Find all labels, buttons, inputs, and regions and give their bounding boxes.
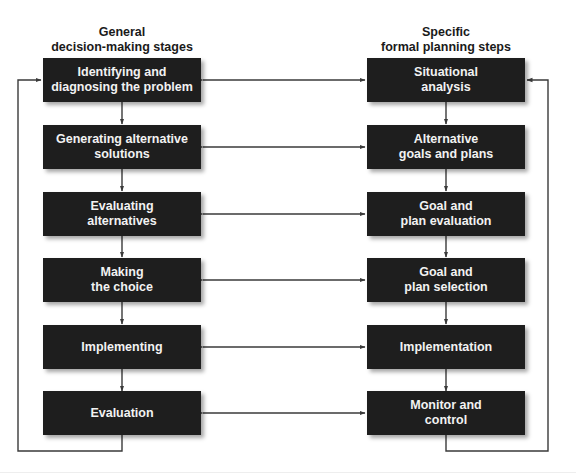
stage-label-line2: the choice	[91, 280, 153, 295]
stage-label-line1: Identifying and	[78, 65, 167, 80]
step-label-line1: Goal and	[419, 265, 472, 280]
stage-label-line1: Evaluating	[90, 199, 153, 214]
stage-label-line2: alternatives	[87, 214, 156, 229]
right-header-line2: formal planning steps	[336, 40, 556, 55]
right-header-line1: Specific	[336, 25, 556, 40]
step-alternative-goals-plans: Alternative goals and plans	[367, 125, 525, 169]
step-label-line2: goals and plans	[399, 147, 493, 162]
step-label-line1: Monitor and	[410, 398, 482, 413]
step-goal-plan-evaluation: Goal and plan evaluation	[367, 192, 525, 236]
left-column-header: General decision-making stages	[12, 25, 232, 55]
stage-label-line2: solutions	[94, 147, 150, 162]
step-label-line1: Situational	[414, 65, 478, 80]
stage-identifying-diagnosing: Identifying and diagnosing the problem	[43, 58, 201, 102]
stage-implementing: Implementing	[43, 325, 201, 369]
diagram-canvas: General decision-making stages Specific …	[0, 0, 576, 476]
stage-evaluating-alternatives: Evaluating alternatives	[43, 192, 201, 236]
stage-generating-alternatives: Generating alternative solutions	[43, 125, 201, 169]
step-label-line1: Implementation	[400, 340, 492, 355]
stage-making-choice: Making the choice	[43, 258, 201, 302]
step-goal-plan-selection: Goal and plan selection	[367, 258, 525, 302]
step-label-line1: Goal and	[419, 199, 472, 214]
step-situational-analysis: Situational analysis	[367, 58, 525, 102]
step-implementation: Implementation	[367, 325, 525, 369]
step-label-line1: Alternative	[414, 132, 479, 147]
left-header-line1: General	[12, 25, 232, 40]
step-label-line2: analysis	[421, 80, 470, 95]
bottom-divider	[0, 472, 576, 473]
stage-label-line2: diagnosing the problem	[51, 80, 193, 95]
step-label-line2: plan evaluation	[401, 214, 492, 229]
left-header-line2: decision-making stages	[12, 40, 232, 55]
step-label-line2: control	[425, 413, 467, 428]
right-column-header: Specific formal planning steps	[336, 25, 556, 55]
stage-label-line1: Generating alternative	[56, 132, 188, 147]
stage-label-line1: Evaluation	[90, 406, 153, 421]
stage-label-line1: Implementing	[81, 340, 162, 355]
step-label-line2: plan selection	[404, 280, 487, 295]
step-monitor-control: Monitor and control	[367, 391, 525, 435]
stage-evaluation: Evaluation	[43, 391, 201, 435]
stage-label-line1: Making	[100, 265, 143, 280]
